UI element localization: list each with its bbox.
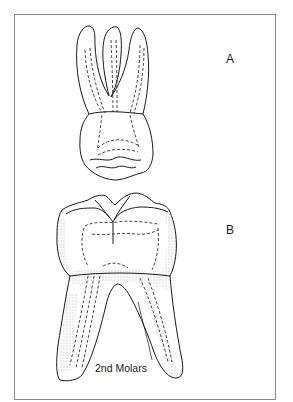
figure-caption: 2nd Molars <box>95 362 147 374</box>
molar-illustration <box>0 0 293 402</box>
label-a: A <box>226 52 234 66</box>
tooth-a-upper-molar <box>77 26 153 180</box>
label-b: B <box>226 223 234 237</box>
tooth-b-lower-molar <box>57 193 183 381</box>
